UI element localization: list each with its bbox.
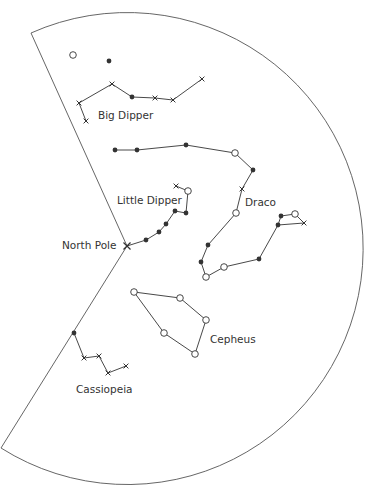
x-star-icon [110,82,115,87]
star-chart [0,0,372,491]
label-draco: Draco [245,197,276,208]
open-star-icon [177,295,184,302]
filled-star-icon [144,238,149,243]
filled-star-icon [173,209,178,214]
open-star-icon [203,274,210,281]
filled-star-icon [276,223,281,228]
open-star-icon [232,150,239,157]
open-star-icon [292,211,299,218]
open-star-icon [233,210,240,217]
constellation-draco [115,145,304,277]
star-markers [70,52,307,376]
open-star-icon [192,351,199,358]
x-star-icon [106,371,111,376]
constellation-lines [74,79,304,373]
open-star-icon [185,188,192,195]
open-star-icon [70,52,77,59]
open-star-icon [131,289,138,296]
constellation-cepheus [134,292,206,354]
filled-star-icon [184,211,189,216]
filled-star-icon [279,214,284,219]
north-pole-marker-icon [124,243,131,250]
sky-sector-frame [1,13,363,485]
x-star-icon [124,364,129,369]
open-star-icon [221,264,228,271]
filled-star-icon [113,148,118,153]
label-little-dipper: Little Dipper [117,195,182,206]
x-star-icon [77,101,82,106]
open-star-icon [161,330,168,337]
filled-star-icon [251,168,256,173]
filled-star-icon [72,331,77,336]
constellation-cassiopeia [74,333,126,373]
filled-star-icon [130,95,135,100]
filled-star-icon [135,148,140,153]
filled-star-icon [257,257,262,262]
sector-outline [1,13,363,485]
label-cepheus: Cepheus [210,334,256,345]
x-star-icon [200,77,205,82]
open-star-icon [203,317,210,324]
filled-star-icon [164,222,169,227]
filled-star-icon [184,143,189,148]
label-north-pole: North Pole [62,240,116,251]
label-big-dipper: Big Dipper [98,110,153,121]
filled-star-icon [199,260,204,265]
filled-star-icon [157,230,162,235]
x-star-icon [174,184,179,189]
filled-star-icon [107,59,112,64]
label-cassiopeia: Cassiopeia [76,384,133,395]
x-star-icon [84,119,89,124]
filled-star-icon [206,243,211,248]
